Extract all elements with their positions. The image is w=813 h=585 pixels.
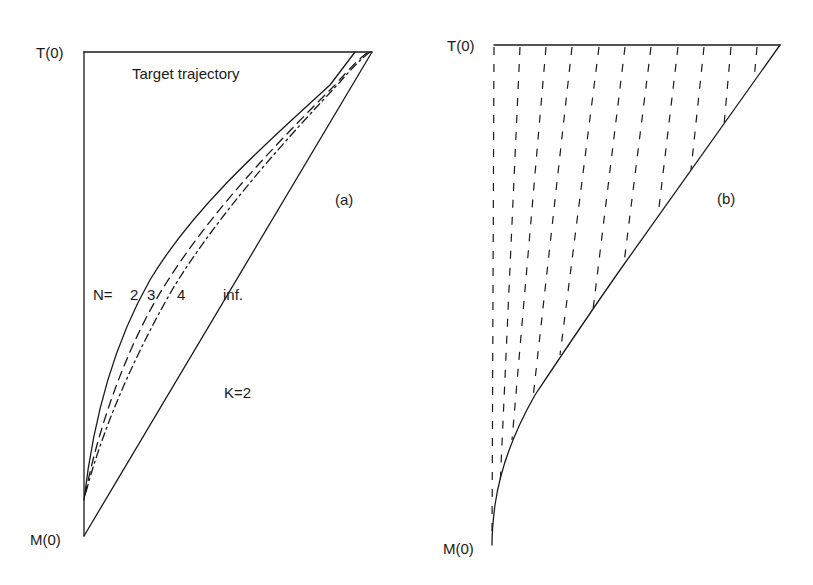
panel-a-m0-label: M(0) — [30, 531, 61, 548]
hatch-line — [754, 47, 757, 80]
n-prefix-label: N= — [93, 286, 113, 303]
k-label: K=2 — [224, 384, 251, 401]
panel-b-m0-label: M(0) — [443, 540, 474, 557]
curve-n-4 — [86, 52, 370, 492]
n-value-inf-label: inf. — [223, 286, 243, 303]
target-trajectory-label: Target trajectory — [132, 65, 240, 82]
hatch-line — [724, 47, 731, 125]
n-value-4-label: 4 — [177, 286, 185, 303]
panel-b: T(0) M(0) (b) — [443, 37, 780, 557]
n-value-3-label: 3 — [147, 286, 155, 303]
panel-a-t0-label: T(0) — [36, 44, 64, 61]
panel-b-trajectory-curve — [492, 45, 780, 545]
panel-a-tag: (a) — [335, 191, 353, 208]
hatch-line — [512, 47, 546, 440]
hatch-line — [533, 47, 572, 398]
hatch-line — [492, 47, 494, 540]
hatch-line — [624, 47, 651, 263]
curve-n-2 — [84, 52, 355, 500]
hatch-line — [658, 47, 678, 216]
hatch-line — [691, 47, 704, 170]
n-value-2-label: 2 — [130, 286, 138, 303]
hatch-line — [500, 47, 520, 488]
panel-b-tag: (b) — [717, 190, 735, 207]
curve-n-3 — [85, 52, 368, 495]
panel-a: T(0) M(0) Target trajectory (a) N= 2 3 4… — [30, 44, 372, 548]
figure-canvas: T(0) M(0) Target trajectory (a) N= 2 3 4… — [0, 0, 813, 585]
panel-b-t0-label: T(0) — [447, 37, 475, 54]
